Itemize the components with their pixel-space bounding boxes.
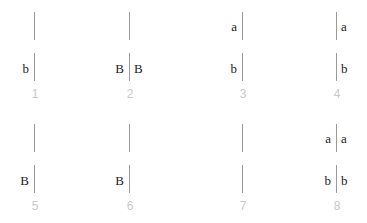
top-bar: [34, 124, 35, 152]
bottom-bar: [129, 53, 130, 81]
top-bar: [34, 12, 35, 40]
panel-5: B 5: [4, 112, 64, 212]
bottom-right-label: b: [341, 62, 348, 76]
top-right-label: a: [341, 20, 347, 34]
panel-3: a b 3: [212, 0, 272, 100]
bottom-left-label: B: [115, 174, 124, 188]
panel-7: 7: [212, 112, 272, 212]
panel-6: B 6: [99, 112, 159, 212]
top-bar: [336, 124, 337, 152]
bottom-bar: [129, 165, 130, 193]
top-bar: [242, 12, 243, 40]
top-left-label: a: [325, 132, 331, 146]
bottom-left-label: B: [115, 62, 124, 76]
panel-8: a a b b 8: [306, 112, 366, 212]
panel-number: 6: [125, 199, 135, 213]
top-bar: [242, 124, 243, 152]
bottom-right-label: b: [341, 174, 348, 188]
panel-number: 5: [30, 199, 40, 213]
bottom-right-label: B: [134, 62, 143, 76]
bottom-left-label: B: [20, 174, 29, 188]
top-left-label: a: [231, 20, 237, 34]
panel-number: 4: [332, 87, 342, 101]
bottom-left-label: b: [231, 62, 238, 76]
top-bar: [129, 12, 130, 40]
bottom-bar: [34, 53, 35, 81]
panel-number: 2: [125, 87, 135, 101]
panel-number: 7: [238, 199, 248, 213]
bottom-left-label: b: [23, 62, 30, 76]
top-bar: [129, 124, 130, 152]
bottom-bar: [34, 165, 35, 193]
panel-4: a b 4: [306, 0, 366, 100]
panel-2: B B 2: [99, 0, 159, 100]
top-bar: [336, 12, 337, 40]
panel-number: 1: [30, 87, 40, 101]
bottom-bar: [336, 165, 337, 193]
panel-1: b 1: [4, 0, 64, 100]
bottom-bar: [242, 53, 243, 81]
bottom-bar: [336, 53, 337, 81]
top-right-label: a: [341, 132, 347, 146]
bottom-left-label: b: [325, 174, 332, 188]
panel-number: 8: [332, 199, 342, 213]
bottom-bar: [242, 165, 243, 193]
panel-number: 3: [238, 87, 248, 101]
